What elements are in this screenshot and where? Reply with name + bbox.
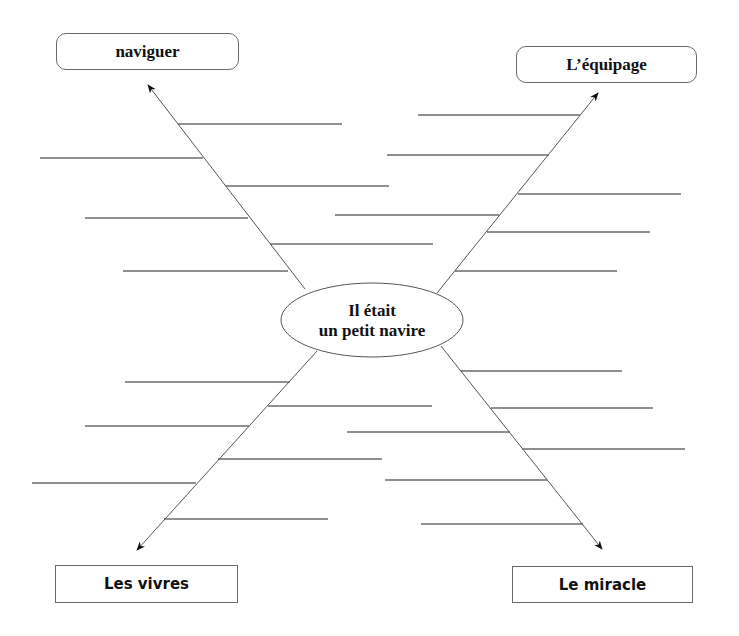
- branch-arrow-top-right: [437, 93, 598, 293]
- branch-arrow-bottom-left: [137, 351, 317, 550]
- center-topic-line2: un petit navire: [319, 321, 425, 341]
- branch-arrow-bottom-right: [441, 346, 602, 549]
- branch-label-text: L’équipage: [566, 55, 647, 75]
- branch-label-equipage: L’équipage: [516, 46, 697, 83]
- branch-label-text: Les vivres: [104, 575, 189, 593]
- branch-label-les-vivres: Les vivres: [55, 565, 238, 603]
- branch-label-text: Le miracle: [559, 576, 646, 594]
- center-topic-line1: Il était: [348, 301, 396, 321]
- branch-label-naviguer: naviguer: [56, 33, 239, 70]
- branch-label-text: naviguer: [115, 42, 179, 62]
- center-topic: Il était un petit navire: [282, 284, 462, 357]
- branch-label-le-miracle: Le miracle: [512, 566, 693, 603]
- branch-arrow-top-left: [148, 85, 305, 289]
